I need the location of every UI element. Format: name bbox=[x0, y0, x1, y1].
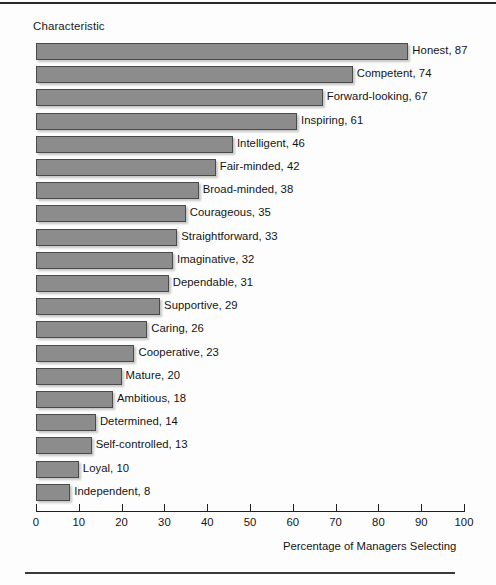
x-axis-title: Percentage of Managers Selecting bbox=[283, 540, 456, 552]
x-axis-tick bbox=[293, 504, 294, 512]
x-axis-tick bbox=[122, 504, 123, 512]
bottom-divider-rule bbox=[25, 572, 455, 574]
bar[interactable] bbox=[36, 136, 233, 153]
bar[interactable] bbox=[36, 159, 216, 176]
x-axis-tick-label: 40 bbox=[187, 516, 227, 528]
bar-value-label: Imaginative, 32 bbox=[177, 253, 254, 265]
bar-value-label: Fair-minded, 42 bbox=[220, 160, 300, 172]
bar-value-label: Determined, 14 bbox=[100, 415, 178, 427]
bar[interactable] bbox=[36, 414, 96, 431]
x-axis-tick-label: 80 bbox=[358, 516, 398, 528]
bar-value-label: Self-controlled, 13 bbox=[96, 438, 188, 450]
bar[interactable] bbox=[36, 437, 92, 454]
x-axis-tick bbox=[164, 504, 165, 512]
bar-value-label: Inspiring, 61 bbox=[301, 114, 363, 126]
bar[interactable] bbox=[36, 298, 160, 315]
bar-value-label: Caring, 26 bbox=[151, 322, 204, 334]
x-axis-tick-label: 100 bbox=[444, 516, 484, 528]
x-axis-tick-label: 70 bbox=[316, 516, 356, 528]
bar[interactable] bbox=[36, 275, 169, 292]
x-axis-tick bbox=[464, 504, 465, 512]
bar[interactable] bbox=[36, 89, 323, 106]
x-axis-tick bbox=[36, 504, 37, 512]
figure-page: Characteristic Honest, 87Competent, 74Fo… bbox=[0, 0, 496, 585]
x-axis-tick-label: 10 bbox=[59, 516, 99, 528]
bar-value-label: Courageous, 35 bbox=[190, 206, 271, 218]
bar[interactable] bbox=[36, 368, 122, 385]
x-axis-tick bbox=[207, 504, 208, 512]
bar-value-label: Mature, 20 bbox=[126, 369, 181, 381]
bar-chart-plot-area: Honest, 87Competent, 74Forward-looking, … bbox=[0, 0, 496, 585]
x-axis-tick bbox=[336, 504, 337, 512]
bar-value-label: Loyal, 10 bbox=[83, 462, 129, 474]
x-axis-tick bbox=[79, 504, 80, 512]
x-axis-tick-label: 90 bbox=[401, 516, 441, 528]
bar[interactable] bbox=[36, 321, 147, 338]
bar-value-label: Dependable, 31 bbox=[173, 276, 253, 288]
x-axis-tick-label: 0 bbox=[16, 516, 56, 528]
bar-value-label: Supportive, 29 bbox=[164, 299, 238, 311]
bar[interactable] bbox=[36, 113, 297, 130]
x-axis-tick-label: 20 bbox=[102, 516, 142, 528]
bar-value-label: Independent, 8 bbox=[74, 485, 150, 497]
bar[interactable] bbox=[36, 43, 408, 60]
bar[interactable] bbox=[36, 205, 186, 222]
bar-value-label: Honest, 87 bbox=[412, 44, 467, 56]
bar-value-label: Competent, 74 bbox=[357, 67, 432, 79]
bar[interactable] bbox=[36, 229, 177, 246]
bar-value-label: Ambitious, 18 bbox=[117, 392, 186, 404]
x-axis-tick-label: 60 bbox=[273, 516, 313, 528]
bar-value-label: Broad-minded, 38 bbox=[203, 183, 294, 195]
bar[interactable] bbox=[36, 391, 113, 408]
bar-value-label: Intelligent, 46 bbox=[237, 137, 305, 149]
bar[interactable] bbox=[36, 484, 70, 501]
bar[interactable] bbox=[36, 252, 173, 269]
bar[interactable] bbox=[36, 66, 353, 83]
bar-value-label: Straightforward, 33 bbox=[181, 230, 277, 242]
x-axis-tick bbox=[250, 504, 251, 512]
x-axis-tick-label: 30 bbox=[144, 516, 184, 528]
x-axis-tick bbox=[378, 504, 379, 512]
bar[interactable] bbox=[36, 461, 79, 478]
x-axis-tick bbox=[421, 504, 422, 512]
x-axis-tick-label: 50 bbox=[230, 516, 270, 528]
bar-value-label: Cooperative, 23 bbox=[138, 346, 219, 358]
bar[interactable] bbox=[36, 345, 134, 362]
bar-value-label: Forward-looking, 67 bbox=[327, 90, 428, 102]
bar[interactable] bbox=[36, 182, 199, 199]
